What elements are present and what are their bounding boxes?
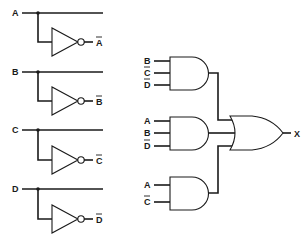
inversion-bubble-icon xyxy=(78,98,84,104)
inverter-d: D D xyxy=(12,184,103,233)
and3-input-a: A xyxy=(144,180,151,190)
not-gate-icon xyxy=(52,205,78,233)
and1-input-d-bar: D xyxy=(144,80,151,90)
and3-input-c-bar: C xyxy=(144,197,151,207)
output-label-c-bar: C xyxy=(96,156,103,166)
and1-input-b: B xyxy=(144,56,151,66)
or-gate: X xyxy=(230,116,300,150)
and-gate-1: B C D xyxy=(144,56,233,120)
and-gate-icon xyxy=(170,117,208,150)
output-label-d-bar: D xyxy=(96,215,103,225)
input-label-c: C xyxy=(12,125,19,135)
and1-input-c-bar: C xyxy=(144,68,151,78)
and-gate-3: A C xyxy=(144,146,233,210)
input-label-b: B xyxy=(12,67,19,77)
inversion-bubble-icon xyxy=(78,157,84,163)
not-gate-icon xyxy=(52,87,78,115)
not-gate-icon xyxy=(52,28,78,56)
not-gate-icon xyxy=(52,146,78,174)
logic-circuit-diagram: A A B B C C D xyxy=(0,0,303,251)
inversion-bubble-icon xyxy=(78,39,84,45)
input-label-a: A xyxy=(12,8,19,18)
and2-input-a: A xyxy=(144,116,151,126)
and2-input-b: B xyxy=(144,128,151,138)
inverter-a: A A xyxy=(12,8,103,56)
output-label-a-bar: A xyxy=(96,38,103,48)
inversion-bubble-icon xyxy=(78,216,84,222)
and-gate-icon xyxy=(170,177,209,210)
inverter-b: B B xyxy=(12,67,103,115)
or-gate-icon xyxy=(230,116,283,150)
inverter-c: C C xyxy=(12,125,103,174)
and2-input-d-bar: D xyxy=(144,141,151,151)
input-label-d: D xyxy=(12,184,19,194)
output-label-x: X xyxy=(294,129,300,139)
and-gate-icon xyxy=(170,57,209,90)
output-label-b-bar: B xyxy=(96,97,103,107)
